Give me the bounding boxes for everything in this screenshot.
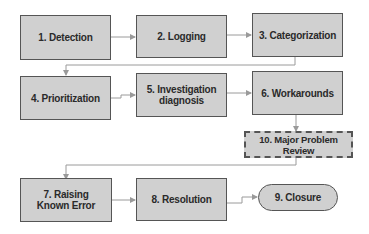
node-label: 4. Prioritization — [31, 93, 100, 104]
node-categorization: 3. Categorization — [252, 13, 343, 57]
node-label: 9. Closure — [275, 192, 321, 203]
arrow-resolution-to-closure — [227, 197, 257, 203]
node-raising-known-error: 7. Raising Known Error — [20, 178, 112, 222]
node-investigation-diagnosis: 5. Investigation diagnosis — [136, 73, 227, 117]
arrow-prioritization-to-investigation — [111, 95, 135, 98]
arrow-review-to-known-error — [66, 157, 296, 179]
node-closure: 9. Closure — [258, 184, 338, 211]
node-label-line2: diagnosis — [159, 95, 204, 106]
node-label-line2: Known Error — [37, 200, 95, 211]
node-prioritization: 4. Prioritization — [20, 76, 111, 120]
node-label: 2. Logging — [157, 31, 206, 42]
node-label: 8. Resolution — [151, 194, 211, 205]
node-label: 1. Detection — [38, 32, 92, 43]
node-label-line1: 7. Raising — [43, 189, 88, 200]
node-label: 10. Major Problem Review — [246, 134, 351, 156]
node-label: 6. Workarounds — [261, 88, 334, 99]
node-label: 3. Categorization — [259, 30, 336, 41]
node-workarounds: 6. Workarounds — [252, 71, 343, 115]
node-resolution: 8. Resolution — [136, 178, 227, 221]
node-detection: 1. Detection — [20, 15, 111, 60]
node-label-line1: 5. Investigation — [147, 84, 217, 95]
node-major-problem-review: 10. Major Problem Review — [244, 131, 353, 158]
node-logging: 2. Logging — [136, 15, 227, 58]
